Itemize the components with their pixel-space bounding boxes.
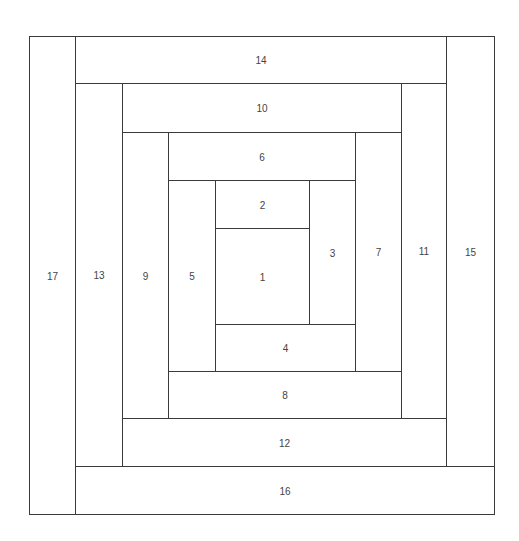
- piece-label: 6: [169, 151, 355, 162]
- piece-6: 6: [168, 132, 356, 181]
- piece-label: 14: [76, 55, 446, 66]
- piece-5: 5: [168, 180, 216, 372]
- piece-15: 15: [446, 36, 495, 467]
- piece-label: 13: [76, 270, 122, 281]
- piece-label: 9: [123, 270, 168, 281]
- piece-9: 9: [122, 132, 169, 419]
- piece-label: 2: [216, 199, 309, 210]
- piece-16: 16: [75, 466, 495, 515]
- piece-label: 8: [169, 390, 401, 401]
- piece-12: 12: [122, 418, 447, 467]
- piece-label: 7: [356, 247, 401, 258]
- piece-label: 3: [310, 247, 355, 258]
- piece-label: 17: [30, 270, 75, 281]
- log-cabin-diagram: 1234567891011121314151617: [0, 0, 519, 541]
- piece-label: 5: [169, 271, 215, 282]
- piece-label: 11: [402, 246, 446, 257]
- piece-label: 16: [76, 485, 494, 496]
- piece-label: 1: [216, 271, 309, 282]
- piece-7: 7: [355, 132, 402, 372]
- piece-label: 10: [123, 103, 401, 114]
- piece-8: 8: [168, 371, 402, 419]
- piece-1: 1: [215, 228, 310, 325]
- piece-4: 4: [215, 324, 356, 372]
- piece-14: 14: [75, 36, 447, 84]
- piece-11: 11: [401, 83, 447, 419]
- piece-17: 17: [29, 36, 76, 515]
- piece-label: 12: [123, 437, 446, 448]
- piece-3: 3: [309, 180, 356, 325]
- piece-2: 2: [215, 180, 310, 229]
- piece-label: 15: [447, 246, 494, 257]
- piece-label: 4: [216, 343, 355, 354]
- piece-13: 13: [75, 83, 123, 467]
- piece-10: 10: [122, 83, 402, 133]
